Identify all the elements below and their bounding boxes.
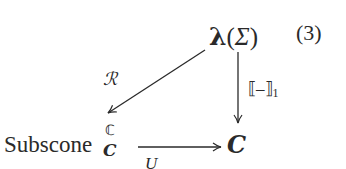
label-u: U: [145, 155, 157, 169]
open-paren: (: [227, 23, 235, 50]
label-r: ℛ: [103, 70, 117, 88]
equation-number: (3): [296, 22, 322, 44]
subscone-base: Subscone: [4, 132, 92, 157]
node-lambda-sigma: λ(Σ): [209, 24, 258, 49]
subscone-superscript: ℂ: [105, 123, 115, 137]
node-c: C: [227, 133, 246, 157]
close-paren: ): [250, 23, 258, 50]
label-semantics: ⟦–⟧1: [248, 80, 279, 99]
sigma-symbol: Σ: [235, 23, 250, 50]
semantic-brackets: ⟦–⟧: [248, 79, 273, 98]
subscone-subscript: C: [103, 142, 117, 159]
semantic-subscript: 1: [273, 86, 279, 100]
lambda-symbol: λ: [209, 22, 227, 51]
node-subscone: Subscone ℂ C: [4, 133, 92, 156]
arrow-r: [108, 50, 205, 113]
